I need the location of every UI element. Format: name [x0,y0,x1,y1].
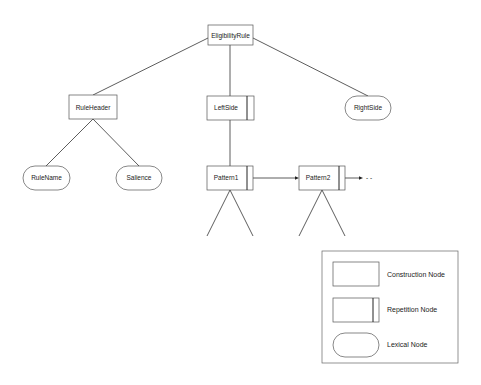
subtree-right-pattern1 [230,190,253,236]
label-rule-name: RuleName [31,174,62,181]
label-left-side: LeftSide [214,104,238,111]
legend-construction-icon [333,262,379,286]
edge-root-ruleheader [93,38,208,95]
subtree-right-pattern2 [322,190,345,236]
legend: Construction Node Repetition Node Lexica… [322,251,458,363]
arrowhead-icon [359,176,363,180]
subtree-left-pattern2 [299,190,322,236]
edge-ruleheader-salience [93,119,139,166]
legend-repetition-icon [333,298,379,322]
label-salience: Salience [127,174,152,181]
edge-root-rightside [253,38,368,96]
legend-lexical-icon [333,333,379,357]
arrowhead-icon [295,176,299,180]
label-pattern2: Pattern2 [306,174,331,181]
label-eligibility-rule: EligibilityRule [211,32,250,40]
edges [46,38,368,236]
tree-diagram: - - EligibilityRule RuleHeader LeftSide … [0,0,481,385]
legend-lexical-label: Lexical Node [387,341,428,348]
label-pattern1: Pattern1 [214,174,239,181]
legend-construction-label: Construction Node [387,271,445,278]
label-rule-header: RuleHeader [76,104,112,111]
continuation-dashes: - - [366,174,372,181]
subtree-left-pattern1 [207,190,230,236]
edge-ruleheader-rulename [46,119,93,166]
legend-repetition-label: Repetition Node [387,306,437,314]
label-right-side: RightSide [354,104,383,112]
